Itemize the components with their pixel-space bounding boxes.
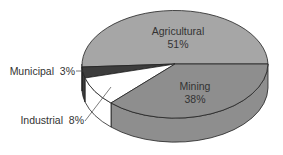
municipal-label: Municipal 3% (10, 65, 75, 77)
industrial-label: Industrial 8% (20, 114, 84, 126)
agricultural-percent: 51% (167, 38, 188, 50)
mining-percent: 38% (184, 93, 205, 105)
pie-chart: Agricultural 51% Mining 38% Municipal 3%… (0, 0, 283, 155)
mining-label: Mining (180, 80, 211, 92)
agricultural-label: Agricultural (152, 25, 205, 37)
